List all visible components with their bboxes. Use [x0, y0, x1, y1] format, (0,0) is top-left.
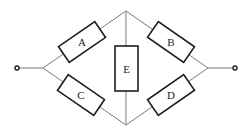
resistor-d: D	[148, 75, 195, 116]
resistor-d-label: D	[167, 89, 175, 101]
left-terminal	[15, 66, 19, 70]
resistor-b-label: B	[167, 36, 174, 48]
resistor-b: B	[148, 22, 195, 63]
resistor-a-label: A	[78, 36, 86, 48]
resistor-e: E	[115, 46, 138, 91]
right-terminal	[233, 66, 237, 70]
resistor-c: C	[57, 75, 104, 116]
bridge-circuit-diagram: A B C D E	[0, 0, 249, 137]
resistor-a: A	[58, 22, 105, 63]
resistor-e-label: E	[123, 63, 130, 75]
resistor-c-label: C	[77, 89, 84, 101]
